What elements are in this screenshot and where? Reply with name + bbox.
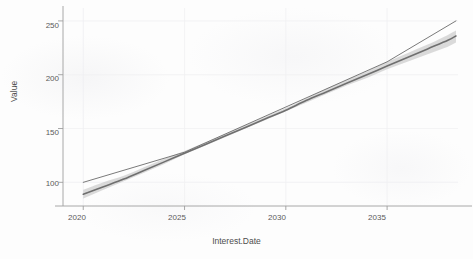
gridlines <box>63 8 458 206</box>
chart-container: Value Interest.Date 250 200 150 100 2020… <box>0 0 473 259</box>
axis-lines <box>55 6 472 206</box>
linear-fit-line <box>83 21 456 182</box>
plot-area <box>0 0 473 259</box>
